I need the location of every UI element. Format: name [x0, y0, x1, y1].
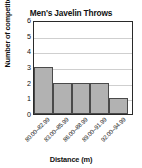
y-tick-label: 5 — [15, 33, 31, 41]
bar — [34, 67, 53, 114]
bar — [72, 83, 91, 114]
x-axis-tick-labels: 80.00–82.9983.00–85.9986.00–88.9989.00–9… — [33, 115, 133, 155]
y-tick-label: 3 — [15, 64, 31, 72]
y-tick-label: 2 — [15, 80, 31, 88]
y-axis-tick-labels: 0123456 — [12, 21, 31, 115]
bar — [90, 83, 109, 114]
plot-area — [33, 21, 133, 115]
bar-series — [34, 22, 132, 114]
bar — [53, 83, 72, 114]
bar — [109, 98, 128, 114]
x-axis-title: Distance (m) — [0, 155, 142, 165]
histogram-chart: Men's Javelin Throws Number of competito… — [0, 0, 142, 168]
y-tick-label: 4 — [15, 48, 31, 56]
y-tick-label: 6 — [15, 17, 31, 25]
y-tick-label: 1 — [15, 95, 31, 103]
y-tick-label: 0 — [15, 111, 31, 119]
